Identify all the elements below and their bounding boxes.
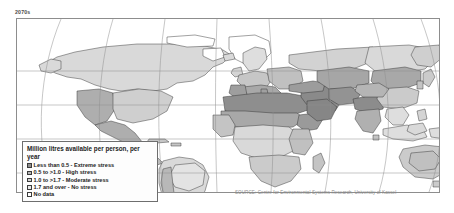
- legend-item-label: Less than 0.5 - Extreme stress: [34, 162, 115, 169]
- legend-item-label: 1.0 to >1.7 - Moderate stress: [34, 177, 109, 184]
- no-stress-swatch: [27, 185, 32, 190]
- source-credit: SOURCE: Centre for Environmental Systems…: [235, 190, 396, 195]
- no-data-swatch: [27, 192, 32, 197]
- region-hispaniola: [171, 143, 181, 146]
- legend-item-extreme-stress[interactable]: Less than 0.5 - Extreme stress: [27, 162, 153, 169]
- moderate-stress-swatch: [27, 178, 32, 183]
- high-stress-swatch: [27, 171, 32, 176]
- legend-title: Million litres available per person, per…: [27, 145, 153, 160]
- bottom-white-margin: [0, 201, 454, 213]
- legend-item-no-data[interactable]: No data: [27, 191, 153, 198]
- legend-item-label: No data: [34, 191, 55, 198]
- region-tasmania: [433, 181, 439, 187]
- legend-item-label: 1.7 and over - No stress: [34, 184, 97, 191]
- region-korea: [417, 81, 423, 89]
- region-philippines: [417, 109, 427, 121]
- decade-title: 2070s: [15, 9, 30, 15]
- legend-item-high-stress[interactable]: 0.5 to >1.0 - High stress: [27, 169, 153, 176]
- water-stress-map-figure: 2070s: [0, 0, 454, 213]
- legend-item-moderate-stress[interactable]: 1.0 to >1.7 - Moderate stress: [27, 177, 153, 184]
- extreme-stress-swatch: [27, 163, 32, 168]
- legend-item-no-stress[interactable]: 1.7 and over - No stress: [27, 184, 153, 191]
- legend-item-label: 0.5 to >1.0 - High stress: [34, 169, 97, 176]
- map-legend: Million litres available per person, per…: [22, 141, 158, 202]
